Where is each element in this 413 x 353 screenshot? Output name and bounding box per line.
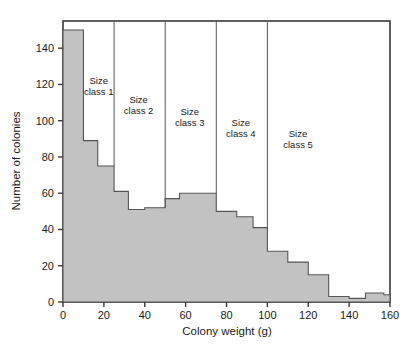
x-tick-label: 60: [180, 309, 192, 321]
size-class-1-label-line1: Size: [90, 75, 108, 86]
y-tick-label: 0: [48, 296, 54, 308]
histogram-chart: 020406080100120140160 020406080100120140…: [0, 0, 413, 353]
x-tick-label: 140: [340, 309, 358, 321]
x-tick-label: 20: [98, 309, 110, 321]
x-tick-label: 40: [139, 309, 151, 321]
size-class-1-label-line2: class 1: [84, 86, 114, 97]
y-tick-label: 80: [42, 151, 54, 163]
y-tick-label: 100: [36, 115, 54, 127]
size-class-4-label-line1: Size: [232, 117, 250, 128]
chart-page: 020406080100120140160 020406080100120140…: [0, 0, 413, 353]
y-axis-title: Number of colonies: [10, 111, 22, 210]
size-class-2-label-line2: class 2: [124, 105, 154, 116]
size-class-3-label-line1: Size: [180, 106, 198, 117]
x-tick-label: 0: [60, 309, 66, 321]
y-tick-label: 20: [42, 260, 54, 272]
size-class-4-label-line2: class 4: [226, 128, 256, 139]
x-tick-label: 80: [220, 309, 232, 321]
size-class-5-label-line2: class 5: [283, 139, 313, 150]
x-tick-label: 120: [299, 309, 317, 321]
x-tick-label: 160: [381, 309, 399, 321]
x-tick-label: 100: [258, 309, 276, 321]
size-class-2-label-line1: Size: [129, 94, 147, 105]
x-axis-title: Colony weight (g): [182, 325, 272, 337]
y-tick-label: 140: [36, 42, 54, 54]
size-class-5-label-line1: Size: [289, 128, 307, 139]
size-class-3-label-line2: class 3: [175, 117, 205, 128]
y-tick-label: 40: [42, 223, 54, 235]
y-tick-label: 120: [36, 78, 54, 90]
y-tick-label: 60: [42, 187, 54, 199]
